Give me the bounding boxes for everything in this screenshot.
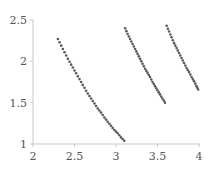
data-point: [130, 40, 133, 43]
data-point: [139, 58, 142, 61]
data-point: [90, 97, 93, 100]
data-point: [174, 44, 177, 47]
x-tick-label: 4: [196, 150, 203, 163]
x-tick-label: 2.5: [66, 150, 84, 163]
data-point: [105, 118, 108, 121]
axes: 22.533.54 11.522.5: [10, 14, 203, 163]
data-point: [65, 54, 68, 57]
data-point: [179, 54, 182, 57]
data-point: [184, 64, 187, 67]
data-point: [143, 65, 146, 68]
data-point: [167, 27, 170, 30]
data-point: [183, 62, 186, 65]
data-point: [134, 48, 137, 51]
data-point: [106, 120, 109, 123]
data-point: [75, 72, 78, 75]
data-point: [193, 80, 196, 83]
data-point: [178, 52, 181, 55]
data-point: [85, 89, 88, 92]
data-point: [108, 122, 111, 125]
data-point: [116, 132, 119, 135]
x-tick-label: 3: [113, 150, 120, 163]
data-point: [80, 81, 83, 84]
data-point: [150, 78, 153, 81]
y-tick-label: 2.5: [10, 14, 28, 27]
data-point: [126, 33, 129, 36]
data-point: [136, 53, 139, 56]
data-point: [68, 60, 71, 63]
data-point: [63, 51, 66, 54]
data-point: [124, 27, 127, 30]
data-point: [93, 102, 96, 105]
data-point: [77, 75, 80, 78]
series-2: [124, 27, 166, 104]
data-point: [67, 58, 70, 61]
x-tick-label: 3.5: [149, 150, 167, 163]
data-point: [110, 125, 113, 128]
data-point: [197, 88, 200, 91]
data-point: [128, 35, 131, 38]
data-point: [91, 100, 94, 103]
data-point: [100, 111, 103, 114]
data-point: [58, 41, 61, 44]
data-point: [60, 44, 63, 47]
data-point: [164, 101, 167, 104]
data-point: [170, 36, 173, 39]
data-point: [129, 38, 132, 41]
data-point: [73, 69, 76, 72]
data-point: [111, 127, 114, 130]
data-point: [78, 78, 81, 81]
y-tick-label: 1: [20, 138, 27, 151]
data-point: [173, 42, 176, 45]
data-point: [101, 114, 104, 117]
y-tick-label: 1.5: [10, 97, 28, 110]
data-point: [88, 95, 91, 98]
data-point: [123, 139, 126, 142]
data-point: [175, 47, 178, 50]
data-point: [96, 107, 99, 110]
data-point: [138, 55, 141, 58]
plot-area: [57, 24, 200, 142]
data-point: [131, 43, 134, 46]
data-point: [98, 109, 101, 112]
data-point: [82, 84, 85, 87]
data-point: [83, 86, 86, 89]
data-point: [177, 49, 180, 52]
y-ticks: 11.522.5: [10, 14, 34, 151]
x-ticks: 22.533.54: [30, 144, 203, 163]
data-point: [169, 33, 172, 36]
data-point: [189, 73, 192, 76]
x-tick-label: 2: [30, 150, 37, 163]
data-point: [149, 76, 152, 79]
y-tick-label: 2: [20, 55, 27, 68]
scatter-chart: 22.533.54 11.522.5: [0, 0, 211, 170]
data-point: [118, 134, 121, 137]
data-point: [62, 48, 65, 51]
data-point: [141, 63, 144, 66]
data-point: [95, 105, 98, 108]
data-point: [165, 24, 168, 27]
data-point: [188, 71, 191, 74]
data-point: [194, 82, 197, 85]
data-point: [140, 60, 143, 63]
data-point: [57, 38, 60, 41]
data-point: [70, 63, 73, 66]
data-point: [135, 50, 138, 53]
series-1: [57, 38, 126, 142]
data-point: [72, 66, 75, 69]
data-point: [168, 30, 171, 33]
data-point: [180, 57, 183, 60]
data-point: [182, 59, 185, 62]
data-point: [125, 30, 128, 33]
series-3: [165, 24, 199, 90]
data-point: [86, 92, 89, 95]
data-point: [133, 45, 136, 48]
data-point: [172, 39, 175, 42]
data-point: [103, 116, 106, 119]
